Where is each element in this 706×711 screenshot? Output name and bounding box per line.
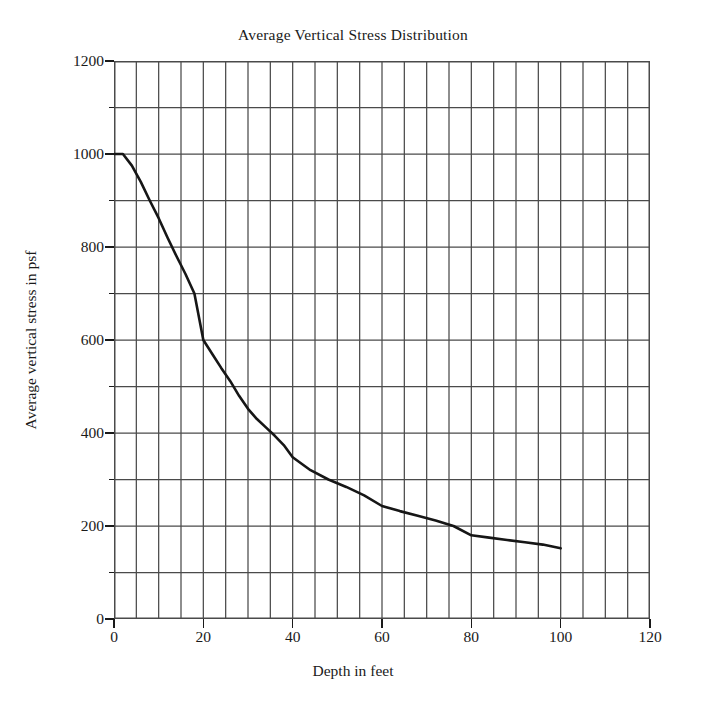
y-axis-title: Average vertical stress in psf [22, 61, 52, 619]
y-major-tick [105, 432, 114, 434]
x-tick-label: 120 [638, 628, 661, 646]
x-tick-label: 100 [549, 628, 572, 646]
y-tick-label: 400 [81, 424, 104, 442]
y-major-tick [105, 60, 114, 62]
x-axis-tick-labels: 020406080100120 [114, 628, 650, 652]
y-minor-tick [109, 293, 114, 294]
y-minor-tick [109, 572, 114, 573]
y-minor-tick [109, 200, 114, 201]
plot-svg [114, 61, 650, 619]
y-tick-label: 600 [81, 331, 104, 349]
y-minor-tick [109, 479, 114, 480]
chart-title: Average Vertical Stress Distribution [0, 26, 706, 44]
x-tick-label: 0 [110, 628, 118, 646]
x-tick-label: 40 [285, 628, 301, 646]
x-tick-label: 60 [374, 628, 390, 646]
y-axis-tick-labels: 020040060080010001200 [52, 61, 104, 619]
x-major-tick [292, 619, 294, 628]
chart-figure: Average Vertical Stress Distribution Ave… [0, 0, 706, 711]
grid-lines [114, 61, 650, 619]
y-tick-label: 800 [81, 238, 104, 256]
x-major-tick [471, 619, 473, 628]
y-tick-label: 0 [96, 610, 104, 628]
y-major-tick [105, 339, 114, 341]
y-major-tick [105, 525, 114, 527]
y-minor-tick [109, 107, 114, 108]
y-tick-label: 200 [81, 517, 104, 535]
x-major-tick [560, 619, 562, 628]
x-major-tick [381, 619, 383, 628]
y-tick-label: 1000 [73, 145, 104, 163]
y-axis-title-container: Average vertical stress in psf [22, 61, 52, 619]
y-minor-tick [109, 386, 114, 387]
x-major-tick [649, 619, 651, 628]
x-tick-label: 20 [196, 628, 212, 646]
x-major-tick [203, 619, 205, 628]
y-major-tick [105, 153, 114, 155]
x-axis-title: Depth in feet [0, 662, 706, 680]
plot-area [114, 61, 650, 619]
x-tick-label: 80 [464, 628, 480, 646]
y-tick-label: 1200 [73, 52, 104, 70]
y-major-tick [105, 246, 114, 248]
x-major-tick [113, 619, 115, 628]
